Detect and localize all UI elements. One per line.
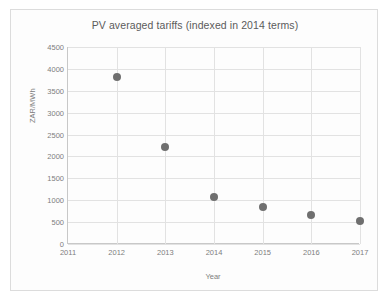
y-tick-label: 4500 (47, 43, 64, 52)
x-gridline (263, 47, 264, 244)
x-tick-label: 2014 (206, 248, 223, 257)
y-tick-label: 4000 (47, 64, 64, 73)
x-tick-label: 2017 (352, 248, 369, 257)
data-point (356, 217, 364, 225)
y-gridline (68, 244, 360, 245)
data-point (259, 203, 267, 211)
x-tick-label: 2011 (60, 248, 76, 257)
y-tick-label: 2000 (47, 152, 64, 161)
y-tick-label: 3000 (47, 108, 64, 117)
x-tick-label: 2012 (108, 248, 125, 257)
x-axis-title: Year (67, 272, 359, 281)
y-axis-title: ZAR/MWh (28, 88, 37, 123)
chart-card: PV averaged tariffs (indexed in 2014 ter… (10, 9, 378, 291)
y-tick-label: 500 (51, 218, 64, 227)
x-tick-label: 2015 (254, 248, 271, 257)
data-point (307, 211, 315, 219)
chart-title: PV averaged tariffs (indexed in 2014 ter… (11, 19, 379, 31)
y-tick-label: 3500 (47, 86, 64, 95)
x-tick-label: 2013 (157, 248, 174, 257)
y-tick-label: 2500 (47, 130, 64, 139)
y-tick-label: 1500 (47, 174, 64, 183)
x-gridline (360, 47, 361, 244)
y-tick-label: 1000 (47, 196, 64, 205)
x-tick-label: 2016 (303, 248, 320, 257)
data-point (161, 143, 169, 151)
x-gridline (214, 47, 215, 244)
plot-area: 0500100015002000250030003500400045002011… (67, 47, 359, 244)
data-point (113, 73, 121, 81)
